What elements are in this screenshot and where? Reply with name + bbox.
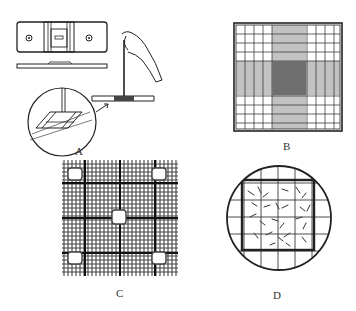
panel-a-label: A	[75, 145, 83, 157]
hemocytometer-slide-illustration	[0, 0, 180, 160]
panel-d-label: D	[273, 289, 281, 301]
panel-b: B	[233, 22, 345, 137]
panel-a: A	[0, 0, 180, 160]
panel-c: C	[62, 160, 180, 300]
panel-c-label: C	[116, 287, 123, 299]
counting-grid-b	[233, 22, 345, 134]
panel-b-label: B	[283, 140, 290, 152]
counting-grid-c	[62, 160, 180, 278]
panel-d: D	[224, 163, 336, 303]
field-of-view-d	[224, 163, 336, 275]
